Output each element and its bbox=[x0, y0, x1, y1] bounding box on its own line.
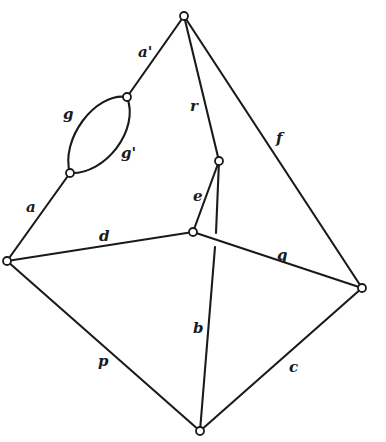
edge-b-upper bbox=[216, 161, 219, 233]
vertex-center bbox=[189, 228, 197, 236]
vertex-loop-upper bbox=[123, 93, 131, 101]
edge-b bbox=[200, 247, 215, 431]
edge-a bbox=[7, 173, 70, 261]
edge-label-g: g bbox=[63, 105, 74, 123]
vertices-group bbox=[3, 12, 366, 435]
edge-f bbox=[184, 16, 362, 288]
vertex-loop-lower bbox=[66, 169, 74, 177]
graph-diagram: a'gg'arfedqbpc bbox=[0, 0, 386, 442]
edge-label-g-prime: g' bbox=[121, 144, 136, 162]
edge-r bbox=[184, 16, 219, 161]
vertex-inner bbox=[215, 157, 223, 165]
edge-label-d: d bbox=[99, 227, 110, 245]
edge-label-p: p bbox=[98, 352, 109, 370]
labels-group: a'gg'arfedqbpc bbox=[26, 43, 298, 376]
edge-label-f: f bbox=[275, 129, 285, 147]
edge-label-e: e bbox=[193, 187, 203, 205]
vertex-right bbox=[358, 284, 366, 292]
vertex-top bbox=[180, 12, 188, 20]
edge-g bbox=[68, 97, 127, 173]
edge-label-b: b bbox=[193, 319, 204, 337]
edge-label-q: q bbox=[277, 246, 288, 264]
edge-a-prime bbox=[127, 16, 184, 97]
edge-p bbox=[7, 261, 200, 431]
edges-group bbox=[7, 16, 362, 431]
edge-c bbox=[200, 288, 362, 431]
edge-label-r: r bbox=[190, 97, 199, 115]
edge-label-a-prime: a' bbox=[138, 43, 152, 61]
edge-label-c: c bbox=[289, 358, 298, 376]
vertex-bottom bbox=[196, 427, 204, 435]
vertex-left bbox=[3, 257, 11, 265]
edge-label-a: a bbox=[26, 198, 36, 216]
